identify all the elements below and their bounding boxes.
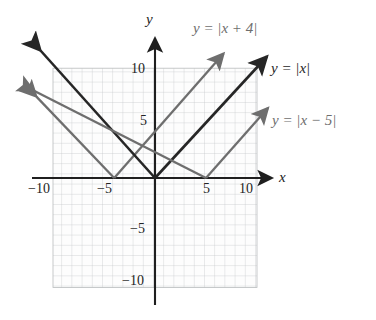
y-tick-label-neg5: −5: [130, 222, 145, 236]
graph-canvas: [0, 0, 376, 320]
y-tick-label-10: 10: [131, 62, 145, 76]
equation-label-x-minus-5: y = |x − 5|: [272, 113, 336, 128]
x-tick-label-5: 5: [203, 182, 210, 196]
y-tick-label-neg10: −10: [122, 274, 144, 288]
absolute-value-graph-figure: −10 −5 5 10 10 5 −5 −10 y x y = |x + 4| …: [0, 0, 376, 320]
equation-label-x-plus-4: y = |x + 4|: [193, 21, 257, 36]
x-tick-label-neg10: −10: [28, 182, 50, 196]
y-tick-label-5: 5: [140, 114, 147, 128]
x-axis-name: x: [279, 170, 286, 185]
y-axis-name: y: [146, 12, 153, 27]
x-tick-label-neg5: −5: [97, 182, 112, 196]
x-tick-label-10: 10: [239, 182, 253, 196]
equation-label-abs-x: y = |x|: [271, 61, 310, 76]
